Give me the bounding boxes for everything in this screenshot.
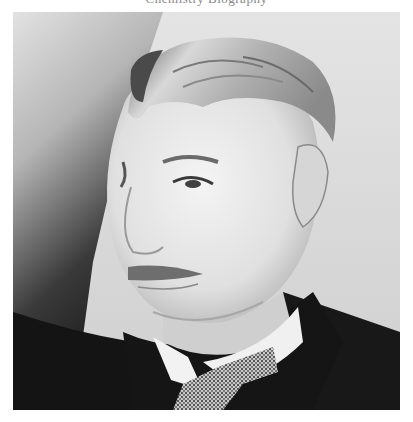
portrait-illustration [13,12,400,410]
portrait-photo [13,12,400,410]
page-caption: Chemistry Biography [0,0,413,7]
